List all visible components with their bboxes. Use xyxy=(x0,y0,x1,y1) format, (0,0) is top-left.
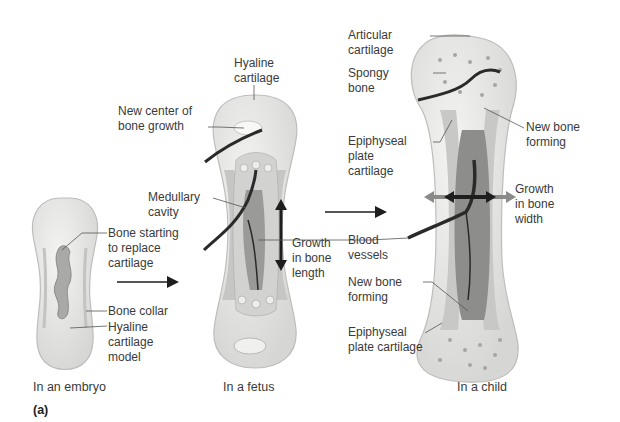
label-bone-starting-to-replace-cartilage: Bone starting to replace cartilage xyxy=(108,226,179,271)
label-spongy-bone: Spongy bone xyxy=(348,66,389,96)
label-epiphyseal-plate-cartilage-bottom: Epiphyseal plate cartilage xyxy=(348,325,423,355)
label-medullary-cavity: Medullary cavity xyxy=(148,190,200,220)
label-growth-in-bone-length: Growth in bone length xyxy=(292,236,331,281)
label-new-bone-forming-bottom: New bone forming xyxy=(348,275,402,305)
child-bone xyxy=(408,35,518,382)
label-epiphyseal-plate-cartilage-top: Epiphyseal plate cartilage xyxy=(348,134,407,179)
label-bone-collar: Bone collar xyxy=(108,304,168,319)
label-growth-in-bone-width: Growth in bone width xyxy=(515,182,554,227)
fetus-bone xyxy=(204,95,297,368)
label-hyaline-cartilage-model: Hyaline cartilage model xyxy=(108,320,153,365)
label-new-center-of-bone-growth: New center of bone growth xyxy=(118,104,192,134)
panel-label: (a) xyxy=(33,403,48,417)
caption-fetus: In a fetus xyxy=(223,380,274,394)
caption-embryo: In an embryo xyxy=(33,380,106,394)
embryo-bone xyxy=(32,198,97,370)
label-new-bone-forming-top: New bone forming xyxy=(526,120,580,150)
label-hyaline-cartilage: Hyaline cartilage xyxy=(234,56,279,86)
label-blood-vessels: Blood vessels xyxy=(348,233,388,263)
label-articular-cartilage: Articular cartilage xyxy=(348,28,393,58)
caption-child: In a child xyxy=(457,380,507,394)
